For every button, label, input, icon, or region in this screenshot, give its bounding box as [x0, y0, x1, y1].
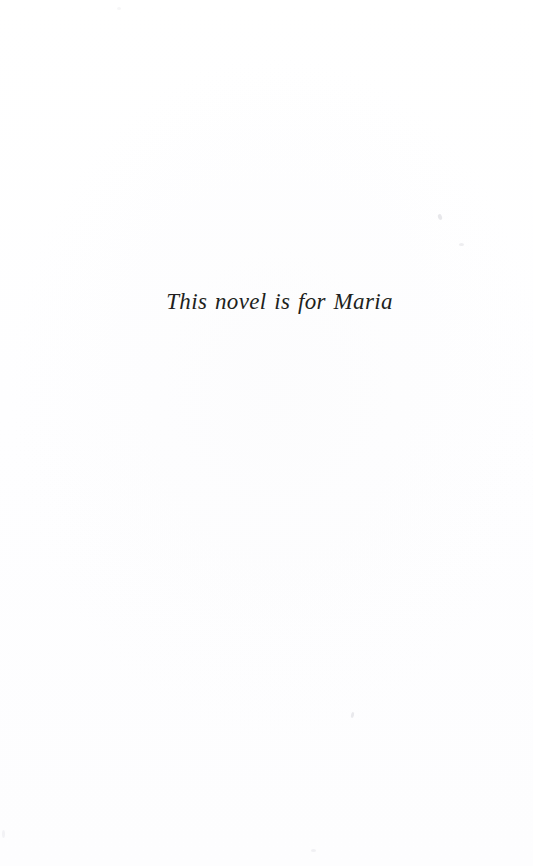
scan-speck-bottom-left-edge [2, 830, 5, 838]
scan-speck-lower-center [350, 712, 354, 718]
scan-speck-upper-right-b [459, 243, 464, 246]
dedication-block: This novel is for Maria [0, 287, 533, 317]
book-page: This novel is for Maria [0, 0, 533, 866]
dedication-text: This novel is for Maria [166, 287, 393, 317]
page-scan-tint [0, 0, 533, 866]
scan-speck-top-left [117, 7, 121, 10]
scan-speck-bottom-center [311, 849, 316, 852]
scan-speck-upper-right-a [437, 214, 443, 221]
